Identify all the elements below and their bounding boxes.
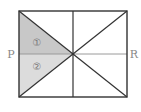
point-label-r: R (130, 48, 139, 61)
region-label-1: ① (33, 37, 42, 48)
geometry-diagram: P R ① ② (0, 0, 141, 112)
center-point (72, 53, 74, 55)
region-label-2: ② (33, 61, 42, 72)
point-label-p: P (7, 48, 15, 61)
